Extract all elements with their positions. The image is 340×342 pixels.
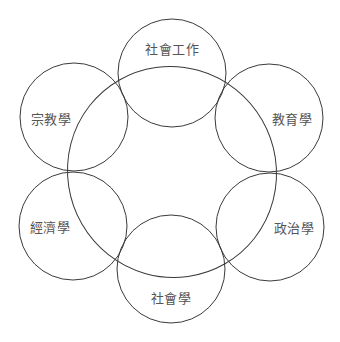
label-religious-studies: 宗教學 — [31, 109, 72, 128]
label-sociology: 社會學 — [151, 288, 192, 307]
label-economics: 經濟學 — [30, 217, 71, 236]
label-political-science: 政治學 — [274, 218, 315, 237]
label-education: 教育學 — [272, 109, 313, 128]
label-social-work: 社會工作 — [145, 39, 199, 58]
discipline-venn-diagram: 社會工作 宗教學 教育學 經濟學 政治學 社會學 — [0, 0, 340, 342]
